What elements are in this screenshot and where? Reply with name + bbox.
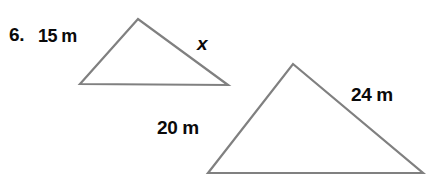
problem-number: 6. (9, 25, 24, 44)
large-triangle-right-side-label: 24 m (351, 85, 393, 104)
small-triangle-right-side-label: x (197, 34, 208, 53)
large-triangle (208, 64, 423, 173)
large-triangle-left-side-label: 20 m (157, 118, 199, 137)
small-triangle-left-side-label: 15 m (38, 27, 77, 45)
geometry-figure: 6. 15 m x 20 m 24 m (0, 0, 431, 184)
